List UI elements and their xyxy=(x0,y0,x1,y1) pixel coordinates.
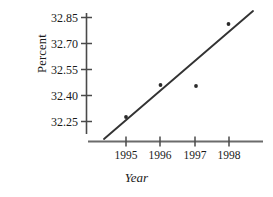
scatter-chart: 32.85 32.70 32.55 32.40 32.25 1995 1996 … xyxy=(0,0,273,197)
data-point-1995 xyxy=(124,115,128,119)
regression-line xyxy=(104,11,253,139)
data-point-1996 xyxy=(159,83,163,87)
y-axis-title: Percent xyxy=(35,24,50,84)
data-point-1997 xyxy=(194,84,198,88)
data-point-1998 xyxy=(227,22,231,26)
x-tick-label-1995: 1995 xyxy=(109,149,143,161)
y-tick-label-32-40: 32.40 xyxy=(36,89,78,104)
x-tick-label-1997: 1997 xyxy=(178,149,212,161)
data-points xyxy=(124,22,230,119)
y-tick-label-32-25: 32.25 xyxy=(36,115,78,130)
x-tick-label-1998: 1998 xyxy=(212,149,246,161)
x-tick-label-1996: 1996 xyxy=(143,149,177,161)
x-axis-title: Year xyxy=(0,170,273,186)
